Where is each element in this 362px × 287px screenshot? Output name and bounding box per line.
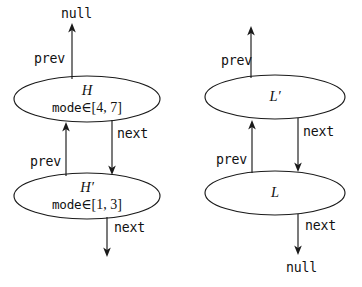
node-detail-h-relation: ∈ xyxy=(81,100,91,115)
edge-label-h-prime-prev-h: prev xyxy=(30,155,61,168)
edge-label-h-prime-next-out: next xyxy=(114,221,145,234)
edge-l-next-null xyxy=(294,214,302,255)
edge-h-prime-next-out xyxy=(103,217,111,257)
node-detail-h-value: [4, 7] xyxy=(92,100,122,115)
edge-label-l-prev-l-prime: prev xyxy=(216,153,247,166)
diagram-canvas xyxy=(0,0,362,287)
node-label-h: H xyxy=(0,83,174,98)
node-detail-h-prime-key: mode xyxy=(52,197,81,212)
edge-l-prev-l-prime xyxy=(248,120,256,173)
edge-h-next-h-prime xyxy=(108,120,116,175)
node-label-l-prime: L′ xyxy=(205,89,345,104)
node-detail-h-prime-relation: ∈ xyxy=(81,197,91,212)
node-label-l: L xyxy=(205,185,345,200)
edge-label-l-next-null: next xyxy=(305,219,336,232)
edge-label-h-prev-null: prev xyxy=(34,52,65,65)
node-label-h-prime: H′ xyxy=(0,180,174,195)
terminal-null-top-left: null xyxy=(61,7,92,20)
edge-label-l-prime-next-l: next xyxy=(303,125,334,138)
node-detail-h-prime: mode∈[1, 3] xyxy=(0,198,174,212)
terminal-null-bottom-right: null xyxy=(286,261,317,274)
edge-l-prime-prev-out xyxy=(247,26,255,78)
edge-label-l-prime-prev-out: prev xyxy=(221,54,252,67)
linked-list-diagram: null prev next prev next H mode∈[4, 7] H… xyxy=(0,0,362,287)
edge-l-prime-next-l xyxy=(294,118,302,172)
node-detail-h-prime-value: [1, 3] xyxy=(92,197,122,212)
edge-label-h-next-h-prime: next xyxy=(117,127,148,140)
edge-h-prev-null xyxy=(68,23,76,79)
node-detail-h: mode∈[4, 7] xyxy=(0,101,174,115)
node-detail-h-key: mode xyxy=(52,100,81,115)
edge-h-prime-prev-h xyxy=(62,122,70,176)
